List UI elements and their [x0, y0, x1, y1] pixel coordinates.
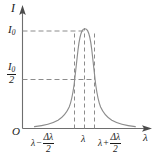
- y-tick-i-zero-over-two: I0 2: [7, 62, 16, 86]
- x-tick-left-operator: −: [36, 139, 42, 149]
- fraction-numerator: Δλ: [43, 133, 55, 144]
- fraction-denominator: 2: [43, 144, 55, 154]
- plot-canvas: [0, 0, 157, 158]
- expression-left: λ − Δλ 2: [31, 133, 54, 154]
- origin-label: O: [12, 126, 20, 137]
- x-tick-right-operator: +: [103, 139, 109, 149]
- spectral-line-figure: I λ O I0 I0 2 λ − Δλ 2 λ λ + Δλ: [0, 0, 157, 158]
- fraction-i-zero-over-two: I0 2: [7, 62, 16, 86]
- fraction-numerator: Δλ: [110, 133, 122, 144]
- y-axis-label: I: [11, 2, 15, 14]
- fraction-denominator: 2: [7, 75, 16, 86]
- fraction-delta-lambda-over-two-right: Δλ 2: [110, 133, 122, 154]
- x-tick-lambda-plus-half-delta: λ + Δλ 2: [98, 133, 121, 154]
- x-tick-left-base: λ: [31, 139, 35, 149]
- y-tick-i-zero: I0: [8, 24, 15, 36]
- numerator-subscript: 0: [12, 65, 16, 74]
- x-tick-lambda-center: λ: [81, 134, 85, 144]
- x-tick-lambda-minus-half-delta: λ − Δλ 2: [31, 133, 54, 154]
- x-tick-right-base: λ: [98, 139, 102, 149]
- x-axis-label: λ: [143, 132, 148, 143]
- fraction-denominator: 2: [110, 144, 122, 154]
- y-tick-i-zero-subscript: 0: [12, 28, 16, 37]
- fraction-delta-lambda-over-two-left: Δλ 2: [43, 133, 55, 154]
- fraction-numerator: I0: [7, 62, 16, 75]
- expression-right: λ + Δλ 2: [98, 133, 121, 154]
